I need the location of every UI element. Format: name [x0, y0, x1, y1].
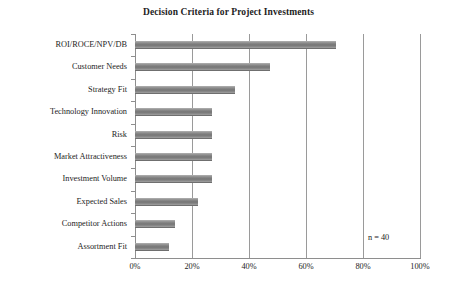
category-label: Strategy Fit — [88, 79, 127, 101]
bar — [135, 131, 212, 139]
category-label: Market Attractiveness — [54, 146, 127, 168]
bar — [135, 86, 235, 94]
x-tick-label: 80% — [355, 262, 370, 271]
bar-row — [135, 168, 420, 190]
bar — [135, 220, 175, 228]
category-axis-labels: ROI/ROCE/NPV/DBCustomer NeedsStrategy Fi… — [0, 34, 131, 258]
bar — [135, 41, 336, 49]
category-label: Assortment Fit — [77, 236, 127, 258]
x-tick-label: 0% — [129, 262, 140, 271]
x-tick-label: 40% — [241, 262, 256, 271]
bar-row — [135, 101, 420, 123]
y-axis-tick — [131, 101, 135, 102]
plot-area — [135, 34, 420, 258]
bar — [135, 175, 212, 183]
y-axis-tick — [131, 146, 135, 147]
value-axis-labels: 0%20%40%60%80%100% — [0, 262, 457, 278]
category-label: Expected Sales — [77, 191, 127, 213]
bar-row — [135, 146, 420, 168]
y-axis-tick — [131, 236, 135, 237]
x-axis-line — [135, 258, 421, 259]
x-tick-label: 20% — [184, 262, 199, 271]
bar — [135, 198, 198, 206]
chart-title: Decision Criteria for Project Investment… — [0, 7, 457, 17]
y-axis-tick — [131, 191, 135, 192]
category-label: Technology Innovation — [50, 101, 127, 123]
gridline-100 — [420, 34, 421, 258]
bar-row — [135, 34, 420, 56]
y-axis-tick — [131, 34, 135, 35]
category-label: Customer Needs — [72, 56, 127, 78]
x-tick-label: 100% — [410, 262, 429, 271]
bar-row — [135, 79, 420, 101]
y-axis-tick — [131, 124, 135, 125]
bar — [135, 243, 169, 251]
bar — [135, 153, 212, 161]
y-axis-tick — [131, 168, 135, 169]
category-label: Risk — [112, 124, 127, 146]
bar-chart: Decision Criteria for Project Investment… — [0, 0, 457, 290]
category-label: ROI/ROCE/NPV/DB — [56, 34, 127, 56]
bar — [135, 63, 270, 71]
y-axis-tick — [131, 79, 135, 80]
sample-size-annotation: n = 40 — [368, 233, 389, 242]
bar-row — [135, 124, 420, 146]
category-label: Competitor Actions — [62, 213, 127, 235]
y-axis-tick — [131, 213, 135, 214]
bar — [135, 108, 212, 116]
y-axis-tick — [131, 56, 135, 57]
bar-row — [135, 191, 420, 213]
x-tick-label: 60% — [298, 262, 313, 271]
category-label: Investment Volume — [63, 168, 127, 190]
bar-row — [135, 56, 420, 78]
